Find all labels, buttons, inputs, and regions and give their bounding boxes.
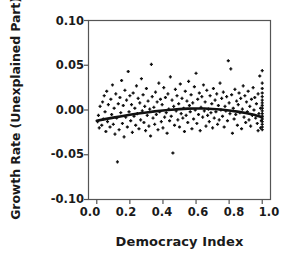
plot-area	[0, 0, 289, 263]
y-axis-ticks	[84, 21, 89, 200]
x-axis-label: Democracy Index	[88, 234, 271, 249]
x-axis-ticks	[97, 200, 262, 205]
chart-figure: Growth Rate (Unexplained Part) 0.10 0.05…	[0, 0, 289, 263]
